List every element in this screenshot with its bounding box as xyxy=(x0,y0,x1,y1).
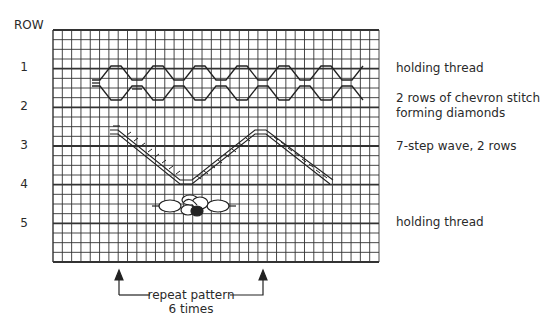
label-row2-chevron-line1: 2 rows of chevron stitch xyxy=(396,91,540,105)
repeat-line2: 6 times xyxy=(146,302,236,316)
repeat-pattern-label: repeat pattern 6 times xyxy=(146,288,236,316)
label-row2-chevron-line2: forming diamonds xyxy=(396,106,505,120)
label-row5-holding-thread: holding thread xyxy=(396,215,484,229)
label-row1-holding-thread: holding thread xyxy=(396,61,484,75)
label-row3-wave: 7-step wave, 2 rows xyxy=(396,139,517,153)
repeat-line1: repeat pattern xyxy=(146,288,236,302)
grid-lines xyxy=(53,30,379,262)
